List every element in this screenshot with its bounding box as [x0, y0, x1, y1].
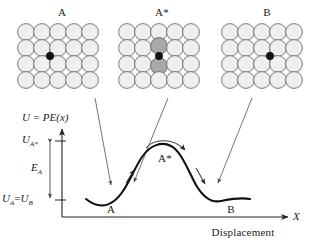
- lattice-atom: [66, 40, 83, 57]
- lattice-atom: [238, 24, 255, 41]
- lattice-atom: [238, 40, 255, 57]
- lattice-atom: [222, 24, 239, 41]
- connector-arrow-b: [218, 98, 252, 183]
- interstitial-atom: [46, 52, 54, 60]
- ua-symbol: U: [2, 192, 10, 204]
- activation-energy-label: EA: [31, 161, 42, 173]
- lattice-atom: [50, 72, 67, 89]
- lattice-b: [222, 24, 303, 89]
- lattice-atom: [167, 56, 184, 73]
- lattice-atom: [34, 72, 51, 89]
- lattice-atom: [222, 72, 239, 89]
- ub-subscript: B: [28, 199, 32, 207]
- lattice-atom: [270, 72, 287, 89]
- lattice-atom: [222, 56, 239, 73]
- lattice-atom: [238, 72, 255, 89]
- curve-label-a-star: A*: [152, 152, 178, 164]
- lattice-atom: [119, 56, 136, 73]
- e-subscript: A: [38, 168, 42, 176]
- lattice-a: [18, 24, 99, 89]
- lattice-atom: [286, 56, 303, 73]
- lattice-atom: [183, 24, 200, 41]
- u-symbol: U: [22, 133, 30, 145]
- lattice-atom: [34, 24, 51, 41]
- interstitial-atom: [155, 52, 163, 60]
- u-subscript: A*: [30, 140, 38, 148]
- curve-label-a: A: [99, 203, 123, 215]
- lattice-atom: [119, 24, 136, 41]
- e-symbol: E: [31, 161, 38, 173]
- lattice-atom: [254, 72, 271, 89]
- lattice-atom: [119, 40, 136, 57]
- lattice-atom: [66, 72, 83, 89]
- y-tick-label-lower: UA=UB: [2, 192, 33, 204]
- y-axis-title: U = PE(x): [22, 111, 69, 123]
- lattice-atom-highlighted: [151, 38, 168, 55]
- lattice-atom: [135, 24, 152, 41]
- lattice-atom: [119, 72, 136, 89]
- lattice-atom: [167, 24, 184, 41]
- lattice-atom: [82, 72, 99, 89]
- lattice-atom: [66, 56, 83, 73]
- lattice-atom: [222, 40, 239, 57]
- lattice-atom: [18, 40, 35, 57]
- interstitial-atom: [266, 52, 274, 60]
- lattice-atom: [82, 56, 99, 73]
- x-axis-symbol: X: [293, 210, 300, 222]
- lattice-atom: [270, 24, 287, 41]
- lattice-b-caption: B: [253, 6, 281, 18]
- lattice-a-star: [119, 24, 200, 89]
- y-tick-label-upper: UA*: [22, 133, 38, 145]
- lattice-atom: [286, 24, 303, 41]
- lattice-atom: [167, 40, 184, 57]
- lattice-atom: [238, 56, 255, 73]
- lattice-atom: [82, 40, 99, 57]
- lattice-atom: [254, 24, 271, 41]
- x-axis-caption: Displacement: [188, 226, 298, 238]
- curve-label-b: B: [219, 203, 243, 215]
- lattice-a-star-caption: A*: [148, 6, 176, 18]
- lattice-atom: [50, 24, 67, 41]
- lattice-atom: [135, 56, 152, 73]
- downhill-arrow: [196, 168, 205, 184]
- lattice-atom: [183, 72, 200, 89]
- lattice-a-caption: A: [48, 6, 76, 18]
- lattice-atom: [82, 24, 99, 41]
- lattice-atom: [66, 24, 83, 41]
- lattice-atom: [135, 40, 152, 57]
- lattice-atom: [18, 56, 35, 73]
- lattice-atom: [183, 40, 200, 57]
- lattice-atom: [18, 72, 35, 89]
- lattice-atom: [18, 24, 35, 41]
- lattice-atom: [286, 72, 303, 89]
- lattice-atom: [135, 72, 152, 89]
- diffusion-energy-figure: [0, 0, 327, 250]
- barrier-crossing-arrow: [146, 141, 185, 150]
- lattice-atom: [167, 72, 184, 89]
- connector-arrow-a: [95, 98, 111, 185]
- y-axis-title-text: U = PE(x): [22, 111, 69, 123]
- lattice-atom: [286, 40, 303, 57]
- lattice-atom: [183, 56, 200, 73]
- lattice-atom: [151, 72, 168, 89]
- connector-arrow-a-star: [134, 98, 168, 182]
